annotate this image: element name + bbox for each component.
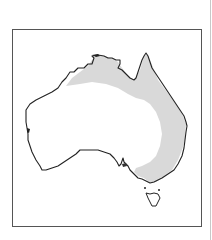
tasmania xyxy=(146,193,160,206)
bass-strait-island-west xyxy=(144,187,146,189)
bass-strait-island-east xyxy=(158,189,160,191)
australia-map xyxy=(0,0,212,240)
